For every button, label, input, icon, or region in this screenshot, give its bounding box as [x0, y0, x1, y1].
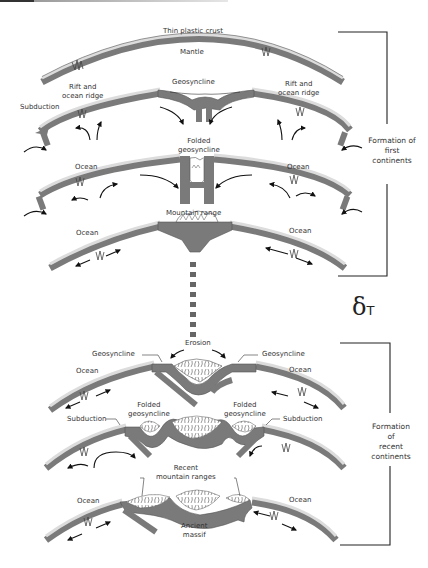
diagram-canvas: Thin plastic crust Mantle Geosyncline Ri… — [0, 0, 428, 568]
label-subduction-top: Subduction — [20, 103, 59, 112]
label-subduction-s6-right: Subduction — [283, 415, 322, 424]
label-ocean-s3-right: Ocean — [287, 163, 309, 172]
time-gap-dashes — [190, 262, 196, 337]
delta-glyph: δ — [352, 293, 366, 321]
label-recent-ranges-line2: mountain ranges — [156, 473, 216, 482]
label-recent-line2: of — [360, 432, 422, 442]
label-folded-right-line2: geosyncline — [224, 410, 266, 419]
label-recent-line3: recent — [360, 442, 422, 452]
label-subduction-s6-left: Subduction — [67, 415, 106, 424]
label-recent-mountain-ranges: Recent mountain ranges — [156, 464, 216, 482]
label-formation-first-continents: Formation of first continents — [359, 136, 425, 166]
label-recent-line1: Formation — [360, 422, 422, 432]
label-ancient-massif: Ancient massif — [181, 522, 208, 540]
label-rift-right: Rift and ocean ridge — [278, 80, 319, 98]
label-thin-plastic-crust: Thin plastic crust — [163, 27, 223, 36]
label-ocean-s7-right: Ocean — [289, 496, 311, 505]
label-folded-right-line1: Folded — [224, 401, 266, 410]
stage-1-plate — [42, 33, 343, 82]
label-folded-geosyncline-s6-left: Folded geosyncline — [128, 401, 170, 419]
label-ocean-s7-left: Ocean — [77, 497, 99, 506]
label-folded-line2: geosyncline — [178, 146, 220, 155]
label-folded-left-line1: Folded — [128, 401, 170, 410]
label-ancient-line2: massif — [181, 531, 208, 540]
stage-5-plates — [50, 355, 344, 410]
label-geosyncline-s5-left: Geosyncline — [92, 350, 135, 359]
label-recent-line4: continents — [360, 452, 422, 462]
label-rift-right-line1: Rift and — [278, 80, 319, 89]
label-folded-left-line2: geosyncline — [128, 410, 170, 419]
label-rift-left-line2: ocean ridge — [62, 92, 103, 101]
label-folded-geosyncline: Folded geosyncline — [178, 137, 220, 155]
label-ocean-s4-right: Ocean — [289, 227, 311, 236]
label-geosyncline-s5-right: Geosyncline — [262, 350, 305, 359]
label-recent-ranges-line1: Recent — [156, 464, 216, 473]
label-formation-recent-continents: Formation of recent continents — [360, 422, 422, 462]
label-rift-left: Rift and ocean ridge — [62, 83, 103, 101]
label-erosion: Erosion — [185, 339, 211, 348]
label-ocean-s5-left: Ocean — [76, 367, 98, 376]
label-ocean-s4-left: Ocean — [76, 229, 98, 238]
label-geosyncline: Geosyncline — [172, 78, 215, 87]
label-folded-geosyncline-s6-right: Folded geosyncline — [224, 401, 266, 419]
time-interval-symbol: δT — [352, 293, 374, 321]
label-first-line3: continents — [359, 156, 425, 166]
t-glyph: T — [366, 303, 374, 318]
label-first-line2: first — [359, 146, 425, 156]
label-rift-right-line2: ocean ridge — [278, 89, 319, 98]
label-ocean-s3-left: Ocean — [75, 163, 97, 172]
label-rift-left-line1: Rift and — [62, 83, 103, 92]
label-first-line1: Formation of — [359, 136, 425, 146]
label-mantle: Mantle — [180, 48, 204, 57]
label-folded-line1: Folded — [178, 137, 220, 146]
label-ocean-s5-right: Ocean — [289, 366, 311, 375]
label-ancient-line1: Ancient — [181, 522, 208, 531]
label-mountain-range: Mountain range — [166, 209, 221, 218]
